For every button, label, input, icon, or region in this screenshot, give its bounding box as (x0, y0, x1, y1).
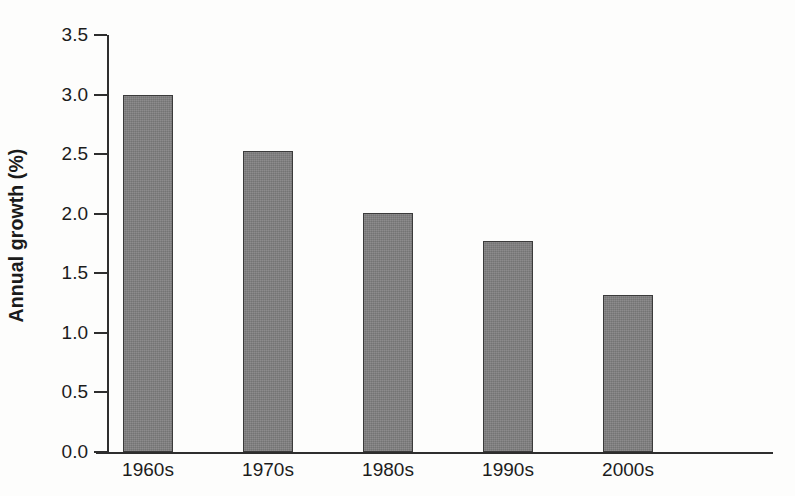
bar (243, 151, 293, 452)
bar-chart-figure: Annual growth (%) 0.00.51.01.52.02.53.03… (0, 0, 795, 496)
bar (603, 295, 653, 452)
bar-series (0, 0, 795, 496)
x-axis-tick-label: 1990s (482, 459, 534, 481)
bar (363, 213, 413, 452)
x-axis-tick-label: 1960s (122, 459, 174, 481)
x-axis-tick-label: 1970s (242, 459, 294, 481)
x-axis-tick-label: 2000s (602, 459, 654, 481)
bar (483, 241, 533, 452)
x-axis-tick-label: 1980s (362, 459, 414, 481)
bar (123, 95, 173, 452)
